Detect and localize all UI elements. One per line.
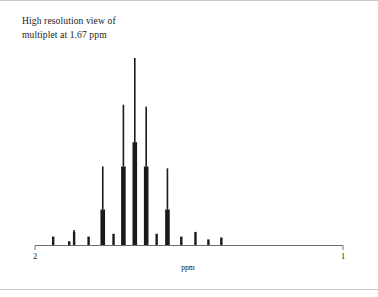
spectrum-peak	[100, 166, 105, 245]
spectrum-peak	[155, 234, 157, 245]
peak-base	[132, 142, 137, 245]
spectrum-peak	[180, 237, 182, 245]
peak-spike	[73, 230, 75, 232]
spectrum-peak	[132, 58, 137, 245]
spectrum-peak	[52, 237, 54, 245]
spectrum-peak	[165, 168, 170, 245]
spectrum-peak	[207, 239, 209, 245]
peak-base	[155, 234, 157, 245]
peak-base	[207, 239, 209, 245]
peak-base	[52, 237, 54, 245]
peak-spike	[167, 168, 169, 209]
spectrum-peak	[220, 238, 222, 245]
peak-base	[87, 237, 89, 245]
peak-base	[144, 166, 149, 245]
spectrum-peak	[112, 234, 114, 245]
spectrum-peak	[73, 230, 75, 245]
spectrum-peak	[68, 241, 70, 245]
peak-base	[100, 209, 105, 245]
peak-base	[220, 238, 222, 245]
nmr-spectrum-plot	[0, 0, 378, 297]
spectrum-peak	[87, 237, 89, 245]
spectrum-peak	[121, 105, 126, 245]
peak-base	[121, 166, 126, 245]
peak-group	[52, 58, 223, 245]
peak-base	[180, 237, 182, 245]
peak-base	[112, 234, 114, 245]
peak-spike	[145, 107, 147, 167]
peak-base	[68, 241, 70, 245]
spectrum-peak	[144, 107, 149, 245]
peak-base	[165, 209, 170, 245]
peak-spike	[134, 58, 136, 142]
figure-root: High resolution view of multiplet at 1.6…	[0, 0, 378, 297]
peak-spike	[102, 166, 104, 209]
peak-base	[73, 232, 75, 245]
spectrum-peak	[194, 232, 196, 245]
peak-spike	[123, 105, 125, 167]
peak-base	[194, 232, 196, 245]
